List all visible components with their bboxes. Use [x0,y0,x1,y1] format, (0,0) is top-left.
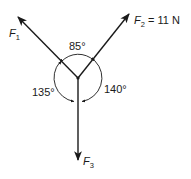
label-f1: F1 [9,27,20,42]
label-f2: F2 = 11 N [134,14,180,29]
angle-arc-140 [82,61,102,102]
angle-arc-135 [54,62,74,102]
label-f3: F3 [83,155,94,170]
angle-label-135: 135° [32,86,55,98]
force-vector-f2 [78,14,129,78]
angle-arc-85 [62,54,95,61]
angle-label-85: 85° [69,40,86,52]
force-diagram: F1 F2 = 11 N F3 85° 135° 140° [0,0,191,179]
angle-label-140: 140° [104,83,127,95]
origin-point [76,76,79,79]
